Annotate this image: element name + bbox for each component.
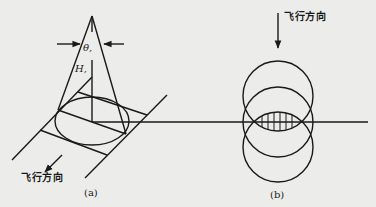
caption-a: (a) xyxy=(84,188,98,198)
flight-direction-arrow-a xyxy=(45,155,62,172)
panel-a-drawing xyxy=(12,16,368,178)
flight-direction-label-a: 飞行方向 xyxy=(21,173,63,183)
flight-direction-label-b: 飞行方向 xyxy=(284,12,326,22)
footprint-circle-1 xyxy=(243,61,313,131)
height-label: H, xyxy=(75,64,87,74)
panel-b-drawing xyxy=(243,13,313,182)
caption-b: (b) xyxy=(270,190,284,200)
theta-label: θ, xyxy=(83,43,92,53)
figure: θ, H, 飞行方向 (a) 飞行方向 (b) xyxy=(0,0,376,207)
swath-cross-1 xyxy=(78,92,147,115)
cone-right-edge xyxy=(92,16,126,134)
